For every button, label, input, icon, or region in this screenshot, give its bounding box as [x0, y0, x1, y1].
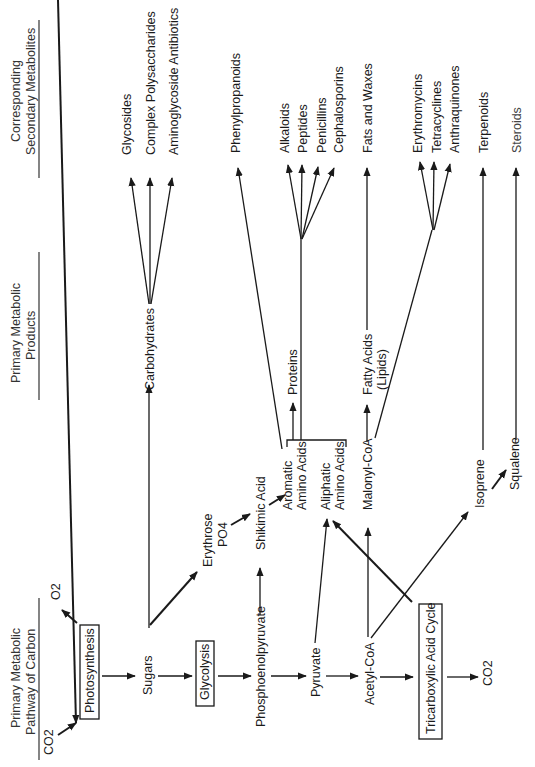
- tetracyclines-label: Tetracyclines: [430, 81, 444, 153]
- photosynthesis-label: Photosynthesis: [83, 628, 97, 713]
- arrow-pk-erythromycins: [420, 162, 433, 230]
- fats-and-waxes-label: Fats and Waxes: [361, 63, 375, 153]
- svg-text:Products: Products: [24, 311, 38, 360]
- svg-text:Pathway of Carbon: Pathway of Carbon: [24, 629, 38, 735]
- aminoglycoside-antibiotics-label: Aminoglycoside Antibiotics: [167, 8, 181, 155]
- pyruvate-label: Pyruvate: [309, 648, 323, 697]
- arrow-pyruvate-aliphatic: [315, 519, 327, 643]
- proteins-label: Proteins: [286, 349, 300, 395]
- steroids-label: Steroids: [510, 107, 524, 153]
- metabolic-pathway-diagram: Primary Metabolic Pathway of Carbon Prim…: [0, 0, 535, 767]
- fatty-acids-label: Fatty Acids: [361, 334, 375, 395]
- header-primary-pathway: Primary Metabolic Pathway of Carbon: [9, 598, 39, 760]
- acetyl-coa-label: Acetyl-CoA: [363, 642, 377, 705]
- sugars-label: Sugars: [141, 655, 155, 695]
- erythrose-po4-label: PO4: [216, 522, 230, 547]
- aliphatic-amino-acids-label: Aliphatic: [319, 463, 333, 510]
- shikimic-acid-label: Shikimic Acid: [254, 476, 268, 550]
- arrow-aa-alkaloids: [288, 165, 301, 239]
- penicillins-label: Penicillins: [315, 97, 329, 153]
- glycolysis-label: Glycolysis: [198, 644, 212, 700]
- squalene-label: Squalene: [508, 437, 522, 490]
- alkaloids-label: Alkaloids: [278, 103, 292, 153]
- phenylpropanoids-label: Phenylpropanoids: [229, 53, 243, 153]
- co2-out-label: CO2: [481, 660, 495, 686]
- malonyl-coa-label: Malonyl-CoA: [361, 438, 375, 510]
- arrow-sugars-erythrose: [150, 572, 197, 625]
- arrow-pk-tetracyclines: [433, 162, 434, 230]
- svg-text:Primary Metabolic: Primary Metabolic: [9, 283, 23, 383]
- anthraquinones-label: Anthraquinones: [448, 65, 462, 153]
- svg-text:Secondary Metabolites: Secondary Metabolites: [24, 28, 38, 155]
- arrow-tca-aliphatic: [333, 521, 412, 602]
- svg-text:Corresponding: Corresponding: [9, 60, 23, 142]
- peptides-label: Peptides: [296, 104, 310, 153]
- arrow-aromatic-phenylpropanoids: [238, 168, 282, 449]
- terpenoids-label: Terpenoids: [477, 92, 491, 153]
- header-primary-products: Primary Metabolic Products: [9, 252, 39, 400]
- carbohydrates-label: Carbohydrates: [143, 308, 157, 390]
- arrow-aa-penicillins: [302, 167, 318, 239]
- svg-text:Primary Metabolic: Primary Metabolic: [9, 628, 23, 728]
- fatty-acids-lipids-label: (Lipids): [375, 349, 389, 390]
- erythromycins-label: Erythromycins: [411, 74, 425, 153]
- tca-cycle-label: Tricarboxylic Acid Cycle: [424, 602, 438, 734]
- line-malonyl-polyketides: [375, 230, 432, 438]
- o2-arrow: [62, 610, 77, 623]
- phosphoenolpyruvate-label: Phosphoenolpyruvate: [254, 606, 268, 727]
- arrow-aa-cephalosporins: [302, 168, 334, 239]
- co2-arrow: [58, 723, 76, 735]
- glycosides-label: Glycosides: [120, 94, 134, 155]
- header-secondary-metabolites: Corresponding Secondary Metabolites: [9, 20, 39, 178]
- co2-in-label: CO2: [42, 729, 56, 755]
- aromatic-amino-acids-label: Aromatic: [281, 461, 295, 510]
- cephalosporins-label: Cephalosporins: [332, 66, 346, 153]
- arrow-aa-peptides: [301, 165, 302, 239]
- o2-out-label: O2: [49, 583, 63, 600]
- aliphatic-amino-acids-label-2: Amino Acids: [333, 441, 347, 510]
- erythrose-label: Erythrose: [201, 513, 215, 567]
- arrow-isoprene-squalene: [492, 470, 506, 489]
- arrow-carb-glycosides: [131, 178, 149, 304]
- arrow-erythrose-shikimic: [231, 514, 250, 525]
- arrow-carb-aminoglycosides: [151, 178, 172, 304]
- arrow-pk-anthraquinones: [434, 164, 450, 230]
- complex-polysaccharides-label: Complex Polysaccharides: [144, 11, 158, 155]
- aromatic-amino-acids-label-2: Amino Acids: [295, 441, 309, 510]
- isoprene-label: Isoprene: [473, 459, 487, 508]
